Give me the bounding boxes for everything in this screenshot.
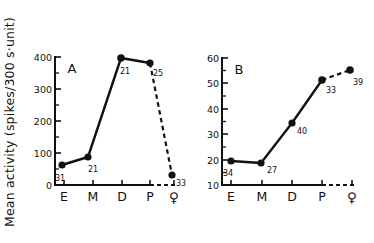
panel-a-point-female xyxy=(168,171,175,178)
panel-a-xtick-label-female: ♀ xyxy=(169,189,179,205)
panel-a-xtick-label-p: P xyxy=(146,189,154,204)
panel-b-xtick-label-female: ♀ xyxy=(347,189,357,205)
panel-a-point-label-p: 25 xyxy=(153,69,163,78)
panel-b-point-m xyxy=(257,159,264,166)
panel-a-ytick-label-400: 400 xyxy=(34,52,52,63)
panel-b-point-e xyxy=(227,157,234,164)
panel-a-label: A xyxy=(68,61,77,76)
chart-svg: Mean activity (spikes/300 s·unit) A 400 … xyxy=(0,0,374,243)
panel-a-ytick-label-300: 300 xyxy=(34,84,52,95)
panel-a-point-label-female: 33 xyxy=(176,179,186,188)
panel-b-ytick-label-60: 60 xyxy=(207,53,219,64)
panel-b-point-female xyxy=(346,66,354,74)
panel-a-point-e xyxy=(58,161,65,168)
panel-b: B 60 50 40 30 20 10 xyxy=(207,53,363,206)
panel-b-xtick-label-d: D xyxy=(287,189,297,204)
panel-a-ytick-label-100: 100 xyxy=(34,148,52,159)
panel-a-xtick-label-e: E xyxy=(60,189,68,204)
panel-b-point-d xyxy=(288,119,295,126)
panel-b-ytick-label-50: 50 xyxy=(207,78,219,89)
panel-b-point-label-m: 27 xyxy=(267,166,277,175)
panel-b-point-label-d: 40 xyxy=(297,127,307,136)
panel-a-xtick-label-d: D xyxy=(117,189,127,204)
figure-container: Mean activity (spikes/300 s·unit) A 400 … xyxy=(0,0,374,243)
y-axis-title: Mean activity (spikes/300 s·unit) xyxy=(2,17,17,227)
panel-b-point-p xyxy=(318,76,326,84)
panel-b-ytick-label-10: 10 xyxy=(207,180,219,191)
panel-a-xtick-label-m: M xyxy=(88,189,99,204)
panel-a-series-dashed xyxy=(150,63,172,175)
panel-a-point-d xyxy=(117,54,125,62)
panel-b-xtick-label-p: P xyxy=(318,189,326,204)
panel-b-point-label-p: 33 xyxy=(326,86,336,95)
panel-b-series-dashed xyxy=(322,70,350,80)
panel-a-point-m xyxy=(84,153,91,160)
y-axis-title-group: Mean activity (spikes/300 s·unit) xyxy=(2,17,17,227)
panel-b-point-label-e: 34 xyxy=(223,169,233,178)
panel-a-point-label-m: 21 xyxy=(88,165,98,174)
panel-a-point-label-e: 31 xyxy=(55,174,65,183)
panel-a-point-label-d: 21 xyxy=(120,67,130,76)
panel-b-series-solid xyxy=(231,80,322,163)
panel-b-ytick-label-30: 30 xyxy=(207,129,219,140)
panel-a: A 400 300 200 100 0 xyxy=(34,52,186,206)
panel-b-point-label-female: 39 xyxy=(353,78,363,87)
panel-b-label: B xyxy=(235,62,244,77)
panel-b-xtick-label-e: E xyxy=(227,189,235,204)
panel-a-ytick-label-200: 200 xyxy=(34,116,52,127)
panel-a-point-p xyxy=(146,59,153,66)
panel-b-ytick-label-40: 40 xyxy=(207,104,219,115)
panel-b-ytick-label-20: 20 xyxy=(207,155,219,166)
panel-a-ytick-label-0: 0 xyxy=(46,180,52,191)
panel-b-xtick-label-m: M xyxy=(257,189,268,204)
